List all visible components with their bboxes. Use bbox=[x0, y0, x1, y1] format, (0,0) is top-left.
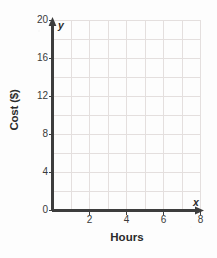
y-tick-label: 12 bbox=[22, 91, 48, 101]
x-tick-label: 4 bbox=[114, 215, 140, 225]
x-tick-label: 2 bbox=[77, 215, 103, 225]
x-tick-label: 8 bbox=[188, 215, 214, 225]
y-tick-label: 16 bbox=[22, 53, 48, 63]
y-tick-label: 0 bbox=[22, 205, 48, 215]
y-tick-label: 4 bbox=[22, 167, 48, 177]
x-axis-tick-labels: 2 4 6 8 bbox=[0, 215, 217, 229]
x-axis-title: Hours bbox=[52, 231, 202, 243]
x-tick-label: 6 bbox=[151, 215, 177, 225]
chart-figure: 0 4 8 12 16 20 2 4 6 8 y x Cost ($) Hour… bbox=[0, 0, 217, 258]
y-axis-line bbox=[49, 17, 57, 211]
y-tick-label: 20 bbox=[22, 15, 48, 25]
x-axis-variable-label: x bbox=[193, 196, 199, 208]
y-tick-label: 8 bbox=[22, 129, 48, 139]
y-axis-variable-label: y bbox=[58, 19, 64, 31]
y-axis-arrowhead bbox=[49, 17, 57, 26]
y-axis-title: Cost ($) bbox=[8, 70, 20, 150]
